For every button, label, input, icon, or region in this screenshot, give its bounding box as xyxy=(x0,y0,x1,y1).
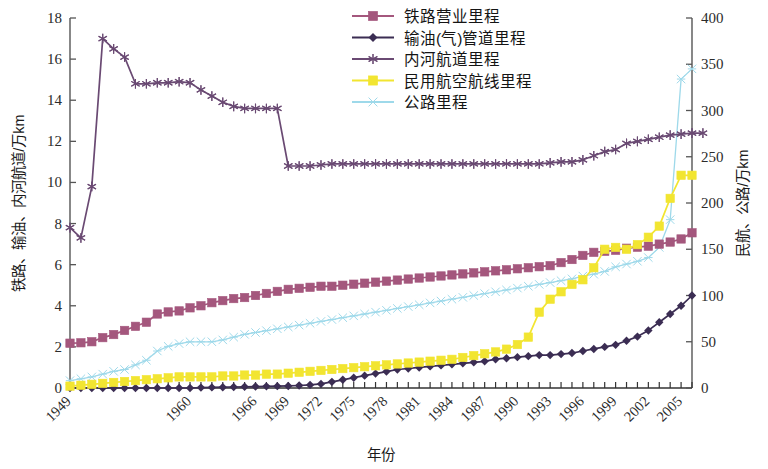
marker-diamond xyxy=(284,382,292,390)
marker-square xyxy=(197,373,205,381)
marker-diamond xyxy=(579,347,587,355)
y-tick-label-right: 50 xyxy=(701,334,716,350)
y-tick-label-left: 12 xyxy=(47,133,62,149)
x-tick-label: 1966 xyxy=(228,393,260,425)
marker-square xyxy=(644,233,652,241)
x-tick-label: 1987 xyxy=(457,393,489,425)
legend-label: 民用航空航线里程 xyxy=(404,73,532,90)
x-tick-label: 2005 xyxy=(653,393,685,425)
series-line xyxy=(70,233,692,343)
marker-square xyxy=(339,364,347,372)
marker-square xyxy=(491,267,499,275)
marker-diamond xyxy=(513,353,521,361)
marker-square xyxy=(295,284,303,292)
marker-square xyxy=(579,276,587,284)
y-tick-label-left: 4 xyxy=(55,298,63,314)
marker-square xyxy=(655,240,663,248)
marker-square xyxy=(513,340,521,348)
y-axis-left-ticks: 024681012141618 xyxy=(47,10,76,396)
marker-square xyxy=(88,380,96,388)
y-tick-label-left: 6 xyxy=(55,257,63,273)
marker-diamond xyxy=(371,369,379,377)
y-tick-label-right: 150 xyxy=(701,241,724,257)
marker-square xyxy=(655,222,663,230)
marker-square xyxy=(437,272,445,280)
marker-square xyxy=(382,277,390,285)
marker-diamond xyxy=(229,383,237,391)
marker-square xyxy=(142,318,150,326)
x-tick-label: 1981 xyxy=(391,393,423,425)
marker-square xyxy=(535,263,543,271)
series-4 xyxy=(66,65,696,385)
marker-square xyxy=(99,379,107,387)
marker-square xyxy=(459,270,467,278)
marker-square xyxy=(633,240,641,248)
marker-square xyxy=(219,296,227,304)
marker-square xyxy=(164,308,172,316)
marker-square xyxy=(666,194,674,202)
marker-square xyxy=(426,273,434,281)
marker-diamond xyxy=(164,384,172,392)
marker-diamond xyxy=(197,383,205,391)
marker-square xyxy=(153,310,161,318)
x-tick-label: 1996 xyxy=(555,393,587,425)
marker-square xyxy=(459,353,467,361)
marker-square xyxy=(371,362,379,370)
axes xyxy=(70,18,692,388)
marker-square xyxy=(153,375,161,383)
marker-square xyxy=(99,333,107,341)
marker-square xyxy=(120,377,128,385)
marker-square xyxy=(404,275,412,283)
marker-square xyxy=(546,261,554,269)
marker-square xyxy=(317,282,325,290)
marker-square xyxy=(590,264,598,272)
marker-square xyxy=(284,369,292,377)
marker-square xyxy=(426,357,434,365)
marker-square xyxy=(546,295,554,303)
series-line xyxy=(70,69,692,381)
marker-square xyxy=(360,279,368,287)
marker-square xyxy=(557,258,565,266)
marker-square xyxy=(415,358,423,366)
series-line xyxy=(70,39,703,238)
legend-label: 公路里程 xyxy=(404,94,468,111)
marker-square xyxy=(240,371,248,379)
marker-square xyxy=(524,264,532,272)
marker-diamond xyxy=(339,376,347,384)
marker-square xyxy=(328,365,336,373)
marker-square xyxy=(666,238,674,246)
y-tick-label-right: 350 xyxy=(701,56,724,72)
marker-square xyxy=(568,255,576,263)
marker-square xyxy=(480,350,488,358)
marker-square xyxy=(229,372,237,380)
marker-square xyxy=(88,338,96,346)
legend-label: 输油(气)管道里程 xyxy=(404,30,526,47)
marker-diamond xyxy=(360,371,368,379)
marker-square xyxy=(611,243,619,251)
x-tick-label: 1993 xyxy=(522,393,554,425)
marker-diamond xyxy=(601,343,609,351)
marker-diamond xyxy=(502,354,510,362)
x-tick-label: 1949 xyxy=(42,393,74,425)
marker-diamond xyxy=(480,357,488,365)
marker-square xyxy=(368,11,377,20)
marker-square xyxy=(579,251,587,259)
marker-square xyxy=(470,351,478,359)
x-axis-title: 年份 xyxy=(367,447,396,463)
marker-diamond xyxy=(546,351,554,359)
marker-diamond xyxy=(175,384,183,392)
marker-diamond xyxy=(611,341,619,349)
marker-square xyxy=(535,308,543,316)
series-line xyxy=(70,296,692,389)
x-tick-label: 1972 xyxy=(293,393,325,425)
marker-diamond xyxy=(208,383,216,391)
marker-square xyxy=(208,298,216,306)
marker-square xyxy=(368,76,377,85)
y-tick-label-left: 10 xyxy=(47,174,62,190)
marker-square xyxy=(350,363,358,371)
marker-square xyxy=(491,348,499,356)
marker-square xyxy=(186,373,194,381)
y-tick-label-right: 250 xyxy=(701,149,724,165)
marker-square xyxy=(360,363,368,371)
marker-square xyxy=(371,278,379,286)
